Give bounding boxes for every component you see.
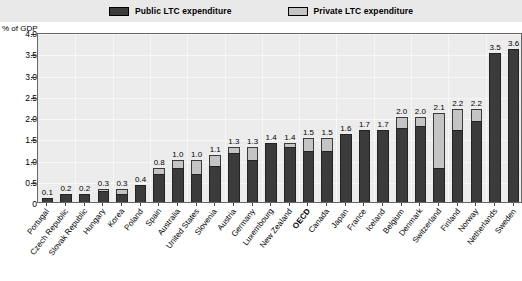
bar-segment-private[interactable] [247,147,259,160]
bar-value-label: 3.6 [508,39,519,48]
y-axis: 00.51.01.52.02.53.03.54.0 [0,33,37,204]
bar-stack[interactable]: 1.7 [359,130,371,202]
x-axis-tick [363,203,364,206]
bar-segment-public[interactable] [415,126,427,203]
bar-segment-public[interactable] [377,130,389,202]
y-axis-tick [31,77,36,78]
bar-stack[interactable]: 0.3 [116,189,128,202]
x-axis-tick [494,203,495,206]
bar-stack[interactable]: 2.0 [415,117,427,202]
bar-segment-public[interactable] [471,121,483,202]
bar-segment-private[interactable] [303,138,315,151]
y-axis-tick [31,140,36,141]
bar-segment-public[interactable] [489,53,501,202]
x-axis-tick [102,203,103,206]
x-axis-tick [140,203,141,206]
bar-stack[interactable]: 3.6 [508,49,520,202]
x-axis-tick [326,203,327,206]
bar-segment-public[interactable] [98,191,110,202]
bar-value-label: 0.3 [116,179,127,188]
x-axis-tick [158,203,159,206]
bar-segment-public[interactable] [340,134,352,202]
y-axis-tick [31,162,36,163]
bar-stack[interactable]: 1.1 [209,155,221,202]
bar-segment-private[interactable] [396,117,408,128]
x-axis-tick [382,203,383,206]
x-axis-tick [457,203,458,206]
bar-value-label: 2.1 [433,103,444,112]
bar-segment-public[interactable] [359,130,371,202]
bar-stack[interactable]: 3.5 [489,53,501,202]
bar-stack[interactable]: 2.2 [452,109,464,203]
bar-value-label: 1.5 [322,128,333,137]
legend-item-public: Public LTC expenditure [109,6,232,16]
bar-segment-public[interactable] [42,198,54,202]
x-axis-tick [270,203,271,206]
bar-segment-public[interactable] [433,168,445,202]
x-axis-tick [307,203,308,206]
bar-segment-public[interactable] [452,130,464,202]
bar-segment-public[interactable] [209,166,221,202]
bar-segment-private[interactable] [415,117,427,126]
bar-value-label: 1.0 [191,150,202,159]
bar-stack[interactable]: 0.1 [42,198,54,202]
bar-segment-public[interactable] [396,128,408,202]
x-axis-tick [121,203,122,206]
bar-segment-public[interactable] [191,174,203,202]
x-axis-tick [252,203,253,206]
bar-segment-private[interactable] [172,160,184,169]
x-axis-tick [84,203,85,206]
bar-stack[interactable]: 1.5 [303,138,315,202]
bar-stack[interactable]: 1.0 [172,160,184,203]
bar-stack[interactable]: 0.2 [60,194,72,203]
bar-value-label: 2.2 [471,99,482,108]
bar-segment-public[interactable] [303,151,315,202]
bar-stack[interactable]: 1.5 [321,138,333,202]
y-axis-tick-label: 0 [8,199,37,209]
bar-value-label: 0.2 [60,184,71,193]
bar-stack[interactable]: 1.6 [340,134,352,202]
bar-stack[interactable]: 0.2 [79,194,91,203]
bar-stack[interactable]: 1.0 [191,160,203,203]
bar-segment-public[interactable] [321,151,333,202]
bar-segment-private[interactable] [433,113,445,168]
bar-stack[interactable]: 0.4 [135,185,147,202]
bar-segment-private[interactable] [471,109,483,122]
bar-stack[interactable]: 1.3 [228,147,240,202]
bar-segment-private[interactable] [209,155,221,166]
bar-segment-public[interactable] [116,194,128,203]
bar-segment-public[interactable] [247,160,259,203]
bar-segment-public[interactable] [135,185,147,202]
bar-segment-public[interactable] [153,174,165,202]
bar-segment-private[interactable] [452,109,464,130]
bar-stack[interactable]: 1.4 [284,143,296,203]
x-axis-labels: PortugalCzech RepublicSlovak RepublicHun… [37,204,522,281]
legend-item-private: Private LTC expenditure [288,6,413,16]
y-axis-tick [31,55,36,56]
bar-segment-public[interactable] [284,147,296,202]
bar-value-label: 1.5 [303,128,314,137]
bar-stack[interactable]: 2.0 [396,117,408,202]
bar-segment-private[interactable] [321,138,333,151]
y-axis-tick [31,183,36,184]
bar-segment-public[interactable] [172,168,184,202]
bar-stack[interactable]: 2.1 [433,113,445,202]
bar-segment-public[interactable] [79,194,91,203]
bar-segment-public[interactable] [508,49,520,202]
bar-segment-public[interactable] [228,153,240,202]
bar-stack[interactable]: 1.4 [265,143,277,203]
bar-stack[interactable]: 0.3 [98,189,110,202]
bar-stack[interactable]: 2.2 [471,109,483,203]
bar-segment-public[interactable] [60,194,72,203]
bar-stack[interactable]: 1.7 [377,130,389,202]
chart-legend: Public LTC expenditure Private LTC expen… [0,0,522,22]
bar-segment-public[interactable] [265,143,277,203]
bar-stack[interactable]: 0.8 [153,168,165,202]
bar-segment-private[interactable] [191,160,203,175]
bar-value-label: 1.3 [228,137,239,146]
bar-value-label: 1.4 [284,133,295,142]
y-axis-tick [31,119,36,120]
x-axis-tick [419,203,420,206]
bar-value-label: 1.4 [266,133,277,142]
bar-stack[interactable]: 1.3 [247,147,259,202]
